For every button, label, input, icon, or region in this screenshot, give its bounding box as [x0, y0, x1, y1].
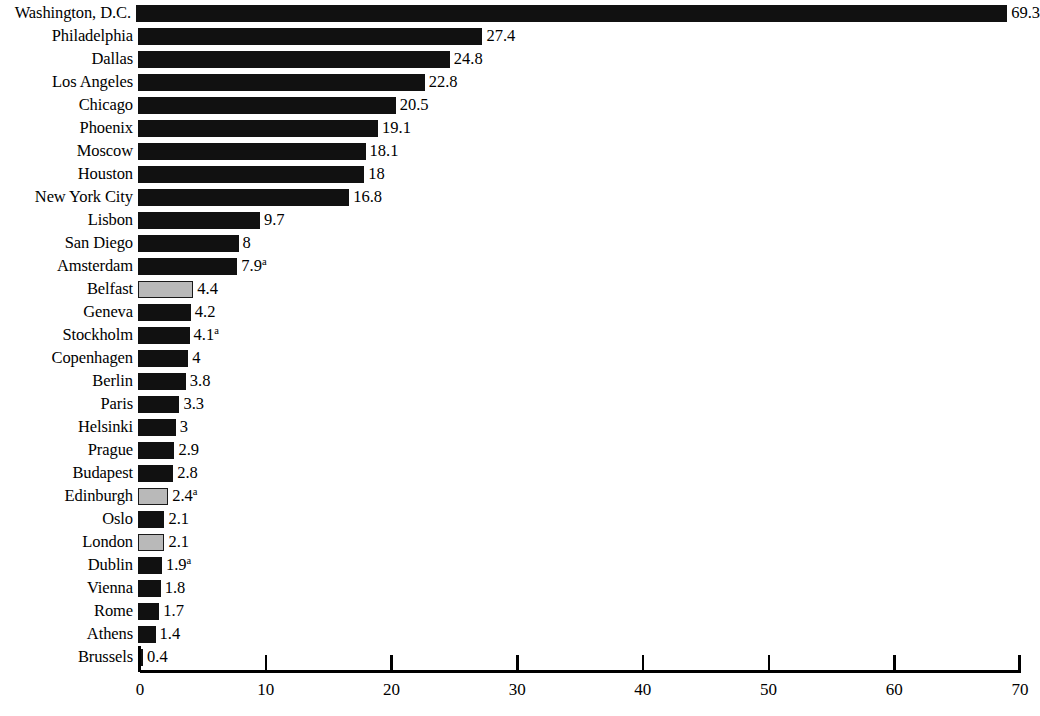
- bar-track: 18.1: [138, 140, 1040, 163]
- bar: [138, 189, 349, 206]
- category-label: New York City: [0, 189, 138, 206]
- bar-value-label: 9.7: [260, 212, 285, 229]
- bar-value-label: 1.8: [161, 580, 186, 597]
- x-tick-label: 60: [886, 680, 903, 700]
- bar-row: Paris3.3: [0, 393, 1040, 416]
- bar-chart: Washington, D.C.69.3Philadelphia27.4Dall…: [0, 0, 1040, 716]
- category-label: Copenhagen: [0, 350, 138, 367]
- bar: [138, 603, 159, 620]
- bar-track: 20.5: [138, 94, 1040, 117]
- bar: [138, 511, 164, 528]
- bar-track: 1.8: [138, 577, 1040, 600]
- category-label: Budapest: [0, 465, 138, 482]
- category-label: Rome: [0, 603, 138, 620]
- category-label: Berlin: [0, 373, 138, 390]
- bar-row: Brussels0.4: [0, 646, 1040, 669]
- bar-value-number: 2.1: [168, 532, 189, 551]
- bar-value-number: 2.9: [178, 440, 199, 459]
- category-label: Dallas: [0, 51, 138, 68]
- bar-value-label: 20.5: [396, 97, 429, 114]
- bar-value-label: 3.8: [186, 373, 211, 390]
- bar-track: 22.8: [138, 71, 1040, 94]
- bar-value-number: 16.8: [353, 187, 382, 206]
- bar-track: 4.1a: [138, 324, 1040, 347]
- bar-value-label: 19.1: [378, 120, 411, 137]
- category-label: Washington, D.C.: [0, 5, 136, 22]
- bar: [138, 488, 168, 505]
- category-label: Brussels: [0, 649, 138, 666]
- bar: [138, 534, 164, 551]
- bar-value-label: 3: [176, 419, 188, 436]
- bar-value-label: 16.8: [349, 189, 382, 206]
- x-tick-label: 40: [634, 680, 651, 700]
- bar: [138, 281, 193, 298]
- bar: [138, 28, 482, 45]
- bar-value-label: 18: [364, 166, 385, 183]
- bar-rows: Washington, D.C.69.3Philadelphia27.4Dall…: [0, 2, 1040, 669]
- bar-track: 2.1: [138, 508, 1040, 531]
- bar-row: London2.1: [0, 531, 1040, 554]
- bar: [138, 373, 186, 390]
- bar-track: 18: [138, 163, 1040, 186]
- category-label: Paris: [0, 396, 138, 413]
- x-tick-label: 20: [383, 680, 400, 700]
- bar-track: 2.1: [138, 531, 1040, 554]
- bar-value-label: 0.4: [143, 649, 168, 666]
- bar-row: Amsterdam7.9a: [0, 255, 1040, 278]
- category-label: Los Angeles: [0, 74, 138, 91]
- bar-value-number: 4.4: [197, 279, 218, 298]
- category-label: Prague: [0, 442, 138, 459]
- x-tick-label: 0: [136, 680, 145, 700]
- bar: [138, 557, 162, 574]
- bar-value-number: 3: [180, 417, 188, 436]
- bar-value-number: 4.1: [194, 325, 215, 344]
- bar-row: Geneva4.2: [0, 301, 1040, 324]
- bar-value-number: 20.5: [400, 95, 429, 114]
- category-label: San Diego: [0, 235, 138, 252]
- bar-value-number: 18: [368, 164, 385, 183]
- bar-row: Dallas24.8: [0, 48, 1040, 71]
- bar-row: Phoenix19.1: [0, 117, 1040, 140]
- category-label: Helsinki: [0, 419, 138, 436]
- category-label: London: [0, 534, 138, 551]
- bar-row: Moscow18.1: [0, 140, 1040, 163]
- bar-track: 19.1: [138, 117, 1040, 140]
- bar-value-number: 1.4: [160, 624, 181, 643]
- bar-row: Athens1.4: [0, 623, 1040, 646]
- bar-row: Lisbon9.7: [0, 209, 1040, 232]
- bar-track: 0.4: [138, 646, 1040, 669]
- bar-row: Stockholm4.1a: [0, 324, 1040, 347]
- bar-row: Oslo2.1: [0, 508, 1040, 531]
- bar: [138, 212, 260, 229]
- category-label: Stockholm: [0, 327, 138, 344]
- bar: [138, 327, 190, 344]
- bar-row: Los Angeles22.8: [0, 71, 1040, 94]
- bar-track: 3.3: [138, 393, 1040, 416]
- category-label: Athens: [0, 626, 138, 643]
- bar-value-label: 4.2: [191, 304, 216, 321]
- bar: [138, 396, 179, 413]
- bar: [138, 143, 366, 160]
- x-tick-label: 10: [257, 680, 274, 700]
- bar-value-label: 1.9a: [162, 557, 191, 574]
- bar-value-label: 2.1: [164, 511, 189, 528]
- bar: [138, 74, 425, 91]
- bar-track: 3.8: [138, 370, 1040, 393]
- bar-track: 2.9: [138, 439, 1040, 462]
- bar-track: 4.4: [138, 278, 1040, 301]
- bar-value-label: 69.3: [1007, 5, 1040, 22]
- bar: [138, 166, 364, 183]
- bar-track: 16.8: [138, 186, 1040, 209]
- category-label: Chicago: [0, 97, 138, 114]
- category-label: Houston: [0, 166, 138, 183]
- bar: [138, 258, 237, 275]
- category-label: Moscow: [0, 143, 138, 160]
- bar-value-number: 7.9: [241, 256, 262, 275]
- bar-value-label: 4.4: [193, 281, 218, 298]
- category-label: Oslo: [0, 511, 138, 528]
- bar-row: Edinburgh2.4a: [0, 485, 1040, 508]
- bar-track: 4: [138, 347, 1040, 370]
- bar: [138, 304, 191, 321]
- x-tick-label: 30: [509, 680, 526, 700]
- bar-track: 9.7: [138, 209, 1040, 232]
